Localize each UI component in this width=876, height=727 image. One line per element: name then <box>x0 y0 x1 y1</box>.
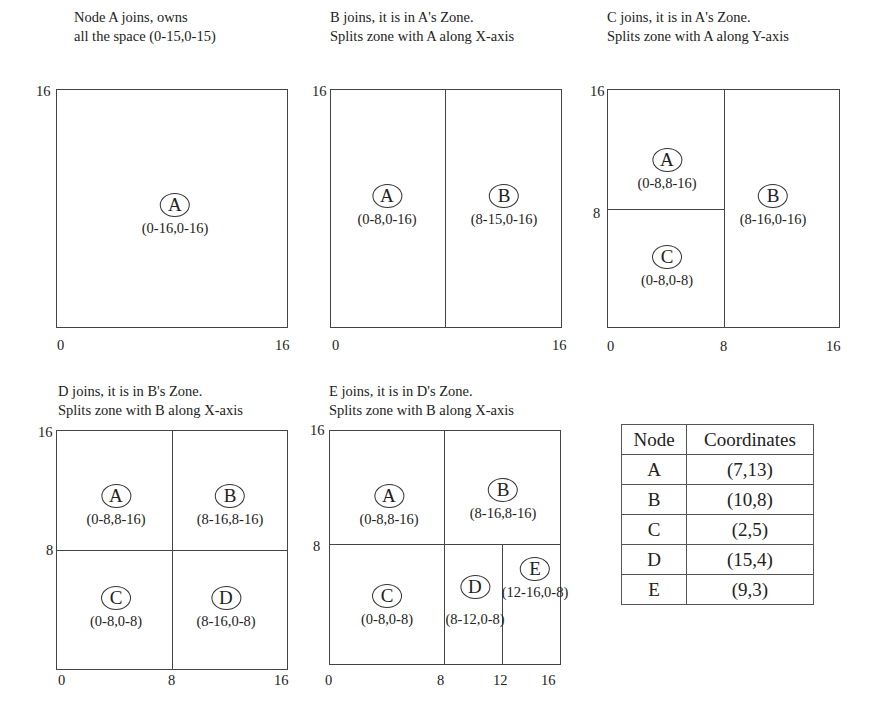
table-row: C (2,5) <box>622 515 814 545</box>
panel-2-zone-a: A (0-8,0-16) <box>357 184 416 228</box>
panel-5-zone-b: B (8-16,8-16) <box>470 478 536 522</box>
panel-2-x-left-label: 0 <box>332 337 339 353</box>
node-d-label: D <box>460 575 490 599</box>
node-cell: D <box>622 545 687 575</box>
panel-1-title-line-2: all the space (0-15,0-15) <box>74 27 216 46</box>
zone-b-range: (8-16,0-16) <box>740 211 806 228</box>
panel-5-zone-c: C (0-8,0-8) <box>361 584 413 628</box>
panel-3-y-mid-label: 8 <box>593 205 600 221</box>
panel-5-title-line-2: Splits zone with B along X-axis <box>329 401 514 420</box>
table-header-row: Node Coordinates <box>622 425 814 455</box>
panel-2-zone-b: B (8-15,0-16) <box>471 184 537 228</box>
panel-1-x-left-label: 0 <box>57 337 64 353</box>
panel-2-y-top-label: 16 <box>312 83 327 99</box>
panel-1-zone-a: A (0-16,0-16) <box>142 193 208 237</box>
node-cell: C <box>622 515 687 545</box>
panel-3-y-split-line <box>607 209 724 210</box>
node-a-label: A <box>101 484 131 508</box>
coordinates-cell: (15,4) <box>687 545 814 575</box>
panel-3-title-line-1: C joins, it is in A's Zone. <box>607 8 789 27</box>
zone-a-range: (0-8,0-16) <box>357 211 416 228</box>
coordinates-cell: (7,13) <box>687 455 814 485</box>
panel-5-zone-space <box>329 430 561 665</box>
header-node: Node <box>622 425 687 455</box>
node-d-label: D <box>211 586 241 610</box>
panel-1-y-top-label: 16 <box>36 83 51 99</box>
node-b-label: B <box>489 184 519 208</box>
panel-4-title: D joins, it is in B's Zone. Splits zone … <box>58 382 243 420</box>
panel-3-title-line-2: Splits zone with A along Y-axis <box>607 27 789 46</box>
panel-4-x-right-label: 16 <box>274 672 289 688</box>
panel-4-title-line-2: Splits zone with B along X-axis <box>58 401 243 420</box>
panel-5-title-line-1: E joins, it is in D's Zone. <box>329 382 514 401</box>
panel-3-zone-a: A (0-8,8-16) <box>637 148 696 192</box>
panel-4-zone-d: D (8-16,0-8) <box>196 586 255 630</box>
node-a-label: A <box>372 184 402 208</box>
zone-b-range: (8-16,8-16) <box>197 511 263 528</box>
node-c-label: C <box>652 245 682 269</box>
panel-3-zone-b: B (8-16,0-16) <box>740 184 806 228</box>
panel-2-title-line-2: Splits zone with A along X-axis <box>330 27 514 46</box>
panel-4-zone-c: C (0-8,0-8) <box>90 586 142 630</box>
panel-1-title-line-1: Node A joins, owns <box>74 8 216 27</box>
node-coordinates-table: Node Coordinates A (7,13) B (10,8) C (2,… <box>621 424 814 605</box>
node-e-label: E <box>520 557 550 581</box>
panel-4-zone-a: A (0-8,8-16) <box>86 484 145 528</box>
table-row: D (15,4) <box>622 545 814 575</box>
panel-3-x-left-label: 0 <box>607 338 614 354</box>
node-a-label: A <box>374 484 404 508</box>
zone-c-range: (0-8,0-8) <box>641 272 693 289</box>
zone-a-range: (0-8,8-16) <box>86 511 145 528</box>
panel-5-x-left-label: 0 <box>325 672 332 688</box>
coordinates-cell: (10,8) <box>687 485 814 515</box>
panel-5-x-right-label: 16 <box>541 672 556 688</box>
panel-4-x-left-label: 0 <box>58 672 65 688</box>
panel-3-zone-c: C (0-8,0-8) <box>641 245 693 289</box>
panel-2-x-split-line <box>445 89 446 328</box>
coordinates-cell: (9,3) <box>687 575 814 605</box>
coordinates-cell: (2,5) <box>687 515 814 545</box>
zone-b-range: (8-15,0-16) <box>471 211 537 228</box>
panel-5-y-split-line <box>329 544 561 545</box>
panel-2-title-line-1: B joins, it is in A's Zone. <box>330 8 514 27</box>
panel-5-y-mid-label: 8 <box>313 538 320 554</box>
node-b-label: B <box>758 184 788 208</box>
zone-d-range: (8-12,0-8) <box>445 611 504 628</box>
panel-5-y-top-label: 16 <box>310 422 325 438</box>
zone-c-range: (0-8,0-8) <box>90 613 142 630</box>
node-a-label: A <box>652 148 682 172</box>
panel-3-x-mid-label: 8 <box>720 338 727 354</box>
table-row: E (9,3) <box>622 575 814 605</box>
panel-4-zone-b: B (8-16,8-16) <box>197 484 263 528</box>
node-cell: A <box>622 455 687 485</box>
zone-c-range: (0-8,0-8) <box>361 611 413 628</box>
table-row: B (10,8) <box>622 485 814 515</box>
zone-d-range: (8-16,0-8) <box>196 613 255 630</box>
node-cell: B <box>622 485 687 515</box>
header-coordinates: Coordinates <box>687 425 814 455</box>
node-c-label: C <box>101 586 131 610</box>
panel-2-x-right-label: 16 <box>552 337 567 353</box>
panel-3-title: C joins, it is in A's Zone. Splits zone … <box>607 8 789 46</box>
panel-5-x-split-line <box>444 430 445 665</box>
zone-a-range: (0-8,8-16) <box>637 175 696 192</box>
zone-b-range: (8-16,8-16) <box>470 505 536 522</box>
panel-5-zone-e: E (12-16,0-8) <box>502 557 568 601</box>
panel-4-y-split-line <box>56 550 288 551</box>
node-c-label: C <box>372 584 402 608</box>
node-b-label: B <box>488 478 518 502</box>
panel-4-title-line-1: D joins, it is in B's Zone. <box>58 382 243 401</box>
panel-5-zone-d: D (8-12,0-8) <box>445 575 504 628</box>
panel-3-x-split-line <box>724 89 725 328</box>
panel-3-x-right-label: 16 <box>826 338 841 354</box>
panel-3-y-top-label: 16 <box>590 83 605 99</box>
node-b-label: B <box>215 484 245 508</box>
panel-4-x-mid-label: 8 <box>168 672 175 688</box>
zone-a-range: (0-16,0-16) <box>142 220 208 237</box>
zone-a-range: (0-8,8-16) <box>359 511 418 528</box>
zone-e-range: (12-16,0-8) <box>502 584 568 601</box>
panel-1-x-right-label: 16 <box>275 337 290 353</box>
node-cell: E <box>622 575 687 605</box>
panel-1-title: Node A joins, owns all the space (0-15,0… <box>74 8 216 46</box>
panel-5-x-mid-label: 8 <box>437 672 444 688</box>
